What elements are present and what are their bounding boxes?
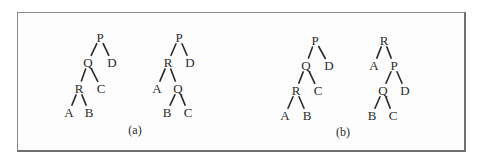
tree-node-p: P — [175, 30, 182, 45]
panel-caption-a: (a) — [128, 123, 141, 137]
tree-edge-r-a — [160, 69, 165, 81]
tree-edge-q-r — [299, 72, 303, 83]
tree-node-a: A — [152, 81, 162, 96]
tree-node-p: P — [390, 58, 397, 73]
tree-node-b: B — [303, 108, 312, 123]
tree-node-a: A — [64, 105, 74, 120]
tree-edge-p-d — [397, 72, 402, 83]
tree-edge-r-q — [171, 69, 176, 81]
tree-node-a: A — [369, 58, 379, 73]
tree-node-r: R — [75, 81, 84, 96]
panel-captions: (a)(b) — [128, 123, 350, 139]
tree-node-c: C — [184, 105, 193, 120]
tree-node-r: R — [164, 55, 173, 70]
tree-node-d: D — [324, 58, 333, 73]
tree-edge-q-c — [91, 69, 97, 82]
tree-edge-p-r — [171, 44, 176, 55]
tree-node-c: C — [389, 108, 398, 123]
tree-node-d: D — [400, 83, 409, 98]
tree-node-a: A — [280, 108, 290, 123]
tree-node-q: Q — [173, 81, 183, 96]
tree-node-p: P — [311, 33, 318, 48]
tree-node-p: P — [96, 30, 103, 45]
tree-edge-p-q — [309, 47, 313, 58]
tree-node-q: Q — [378, 83, 388, 98]
tree-node-c: C — [314, 83, 323, 98]
tree-node-d: D — [185, 55, 194, 70]
tree-edge-q-c — [386, 97, 390, 108]
tree-node-q: Q — [301, 58, 311, 73]
tree-node-c: C — [97, 81, 106, 96]
tree-node-b: B — [368, 108, 377, 123]
tree-edge-r-a — [288, 97, 293, 108]
tree-node-b: B — [163, 105, 172, 120]
tree-node-r: R — [292, 83, 301, 98]
tree-edge-r-a — [377, 47, 381, 58]
tree-rotation-diagram: PQDRCABPRDAQBCPQDRCABRAPQDBC (a)(b) — [0, 0, 484, 163]
tree-edge-r-p — [387, 47, 391, 58]
tree-node-d: D — [107, 55, 116, 70]
tree-node-q: Q — [83, 55, 93, 70]
tree-edge-p-d — [182, 44, 187, 55]
tree-edge-q-r — [81, 69, 85, 81]
tree-node-b: B — [85, 105, 94, 120]
tree-edge-r-b — [299, 97, 304, 108]
tree-nodes: PQDRCABPRDAQBCPQDRCABRAPQDBC — [64, 30, 409, 123]
panel-caption-b: (b) — [336, 125, 350, 139]
tree-edge-p-q — [386, 72, 391, 83]
tree-edge-q-b — [375, 97, 380, 108]
tree-edges — [72, 44, 402, 109]
tree-node-r: R — [380, 33, 389, 48]
